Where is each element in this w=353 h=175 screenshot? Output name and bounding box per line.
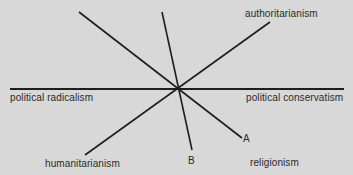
label-B: B — [188, 155, 195, 166]
label-religionism: religionism — [250, 157, 299, 168]
axis-to-A — [79, 12, 242, 138]
label-political-conservatism: political conservatism — [246, 92, 343, 103]
diagram-lines — [0, 0, 353, 175]
attitude-dimensions-diagram: authoritarianism political radicalism po… — [0, 0, 353, 175]
label-A: A — [243, 133, 250, 144]
label-humanitarianism: humanitarianism — [45, 158, 120, 169]
label-political-radicalism: political radicalism — [10, 92, 93, 103]
label-authoritarianism: authoritarianism — [245, 8, 318, 19]
